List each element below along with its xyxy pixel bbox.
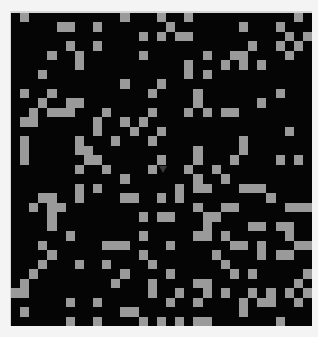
empty-cell[interactable] bbox=[57, 155, 66, 164]
empty-cell[interactable] bbox=[111, 79, 120, 88]
alive-cell[interactable] bbox=[239, 241, 248, 250]
empty-cell[interactable] bbox=[93, 165, 102, 174]
empty-cell[interactable] bbox=[157, 146, 166, 155]
empty-cell[interactable] bbox=[157, 241, 166, 250]
alive-cell[interactable] bbox=[294, 241, 303, 250]
empty-cell[interactable] bbox=[148, 79, 157, 88]
empty-cell[interactable] bbox=[93, 260, 102, 269]
alive-cell[interactable] bbox=[20, 279, 29, 288]
empty-cell[interactable] bbox=[157, 22, 166, 31]
empty-cell[interactable] bbox=[57, 117, 66, 126]
empty-cell[interactable] bbox=[221, 155, 230, 164]
empty-cell[interactable] bbox=[57, 298, 66, 307]
empty-cell[interactable] bbox=[212, 222, 221, 231]
empty-cell[interactable] bbox=[38, 250, 47, 259]
empty-cell[interactable] bbox=[66, 146, 75, 155]
empty-cell[interactable] bbox=[212, 70, 221, 79]
empty-cell[interactable] bbox=[66, 13, 75, 22]
alive-cell[interactable] bbox=[212, 250, 221, 259]
empty-cell[interactable] bbox=[193, 241, 202, 250]
empty-cell[interactable] bbox=[148, 117, 157, 126]
empty-cell[interactable] bbox=[130, 203, 139, 212]
empty-cell[interactable] bbox=[75, 307, 84, 316]
alive-cell[interactable] bbox=[239, 307, 248, 316]
empty-cell[interactable] bbox=[203, 193, 212, 202]
alive-cell[interactable] bbox=[239, 51, 248, 60]
empty-cell[interactable] bbox=[184, 317, 193, 326]
empty-cell[interactable] bbox=[93, 60, 102, 69]
empty-cell[interactable] bbox=[285, 70, 294, 79]
empty-cell[interactable] bbox=[111, 60, 120, 69]
empty-cell[interactable] bbox=[120, 70, 129, 79]
empty-cell[interactable] bbox=[130, 165, 139, 174]
empty-cell[interactable] bbox=[75, 155, 84, 164]
empty-cell[interactable] bbox=[20, 60, 29, 69]
empty-cell[interactable] bbox=[11, 108, 20, 117]
alive-cell[interactable] bbox=[230, 269, 239, 278]
empty-cell[interactable] bbox=[184, 250, 193, 259]
alive-cell[interactable] bbox=[203, 222, 212, 231]
empty-cell[interactable] bbox=[276, 127, 285, 136]
empty-cell[interactable] bbox=[203, 127, 212, 136]
empty-cell[interactable] bbox=[203, 41, 212, 50]
empty-cell[interactable] bbox=[303, 165, 312, 174]
empty-cell[interactable] bbox=[193, 260, 202, 269]
empty-cell[interactable] bbox=[84, 231, 93, 240]
empty-cell[interactable] bbox=[303, 98, 312, 107]
empty-cell[interactable] bbox=[75, 231, 84, 240]
empty-cell[interactable] bbox=[230, 41, 239, 50]
alive-cell[interactable] bbox=[303, 203, 312, 212]
empty-cell[interactable] bbox=[303, 79, 312, 88]
empty-cell[interactable] bbox=[285, 307, 294, 316]
empty-cell[interactable] bbox=[38, 79, 47, 88]
empty-cell[interactable] bbox=[75, 13, 84, 22]
alive-cell[interactable] bbox=[285, 222, 294, 231]
empty-cell[interactable] bbox=[148, 51, 157, 60]
alive-cell[interactable] bbox=[276, 155, 285, 164]
empty-cell[interactable] bbox=[257, 89, 266, 98]
empty-cell[interactable] bbox=[20, 108, 29, 117]
cell-grid-board[interactable] bbox=[11, 13, 312, 326]
alive-cell[interactable] bbox=[75, 60, 84, 69]
empty-cell[interactable] bbox=[294, 317, 303, 326]
empty-cell[interactable] bbox=[29, 127, 38, 136]
empty-cell[interactable] bbox=[102, 51, 111, 60]
empty-cell[interactable] bbox=[29, 317, 38, 326]
empty-cell[interactable] bbox=[257, 203, 266, 212]
empty-cell[interactable] bbox=[93, 279, 102, 288]
empty-cell[interactable] bbox=[139, 108, 148, 117]
empty-cell[interactable] bbox=[175, 174, 184, 183]
empty-cell[interactable] bbox=[130, 269, 139, 278]
alive-cell[interactable] bbox=[93, 41, 102, 50]
alive-cell[interactable] bbox=[221, 60, 230, 69]
empty-cell[interactable] bbox=[239, 317, 248, 326]
empty-cell[interactable] bbox=[157, 51, 166, 60]
empty-cell[interactable] bbox=[166, 146, 175, 155]
empty-cell[interactable] bbox=[230, 317, 239, 326]
empty-cell[interactable] bbox=[11, 136, 20, 145]
empty-cell[interactable] bbox=[139, 269, 148, 278]
empty-cell[interactable] bbox=[84, 307, 93, 316]
empty-cell[interactable] bbox=[285, 136, 294, 145]
empty-cell[interactable] bbox=[11, 89, 20, 98]
empty-cell[interactable] bbox=[276, 136, 285, 145]
empty-cell[interactable] bbox=[266, 136, 275, 145]
empty-cell[interactable] bbox=[221, 317, 230, 326]
empty-cell[interactable] bbox=[66, 212, 75, 221]
empty-cell[interactable] bbox=[130, 288, 139, 297]
alive-cell[interactable] bbox=[47, 250, 56, 259]
empty-cell[interactable] bbox=[11, 222, 20, 231]
empty-cell[interactable] bbox=[20, 222, 29, 231]
alive-cell[interactable] bbox=[184, 70, 193, 79]
empty-cell[interactable] bbox=[57, 260, 66, 269]
empty-cell[interactable] bbox=[294, 60, 303, 69]
empty-cell[interactable] bbox=[285, 165, 294, 174]
empty-cell[interactable] bbox=[157, 174, 166, 183]
empty-cell[interactable] bbox=[75, 279, 84, 288]
empty-cell[interactable] bbox=[38, 108, 47, 117]
alive-cell[interactable] bbox=[193, 279, 202, 288]
empty-cell[interactable] bbox=[184, 288, 193, 297]
empty-cell[interactable] bbox=[193, 41, 202, 50]
empty-cell[interactable] bbox=[47, 22, 56, 31]
empty-cell[interactable] bbox=[303, 231, 312, 240]
